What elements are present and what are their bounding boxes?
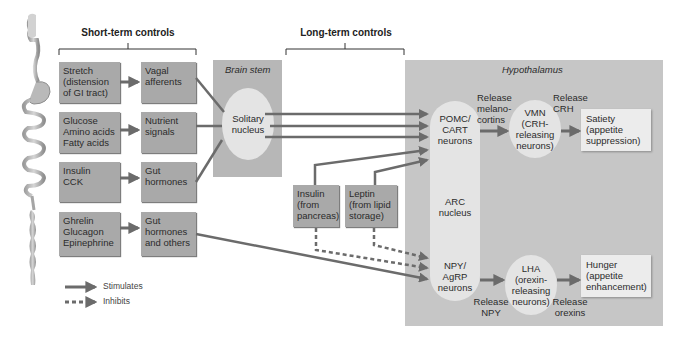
legend-stimulates-label: Stimulates <box>103 281 143 291</box>
legend-inhibits-label: Inhibits <box>103 296 130 306</box>
